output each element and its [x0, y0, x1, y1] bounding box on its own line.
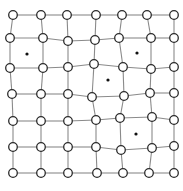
grid-node-circle-icon: [92, 143, 101, 152]
grid-graph-diagram: [0, 0, 183, 191]
grid-node-circle-icon: [6, 64, 15, 73]
grid-node-circle-icon: [9, 143, 18, 152]
grid-node-circle-icon: [64, 143, 73, 152]
grid-node-circle-icon: [170, 63, 179, 72]
grid-node-circle-icon: [92, 116, 101, 125]
grid-node-circle-icon: [88, 93, 97, 102]
grid-node-circle-icon: [170, 142, 179, 151]
grid-node-circle-icon: [90, 60, 99, 69]
grid-node-circle-icon: [119, 169, 128, 178]
grid-node-circle-icon: [8, 90, 17, 99]
grid-node-circle-icon: [147, 65, 156, 74]
grid-node-circle-icon: [37, 11, 46, 20]
grid-node-circle-icon: [92, 11, 101, 20]
grid-node-circle-icon: [170, 169, 179, 178]
grid-node-circle-icon: [64, 169, 73, 178]
grid-node-circle-icon: [170, 34, 179, 43]
grid-node-circle-icon: [118, 11, 127, 20]
grid-node-circle-icon: [9, 169, 18, 178]
grid-node-circle-icon: [170, 89, 179, 98]
grid-node-circle-icon: [147, 34, 156, 43]
grid-node-circle-icon: [64, 63, 73, 72]
grid-node-circle-icon: [119, 63, 128, 72]
vertical-edge: [92, 64, 94, 97]
center-dot-icon: [134, 132, 137, 135]
grid-node-circle-icon: [170, 11, 179, 20]
grid-node-circle-icon: [37, 117, 46, 126]
grid-node-circle-icon: [145, 169, 154, 178]
center-dot-icon: [135, 51, 138, 54]
grid-node-circle-icon: [39, 64, 48, 73]
grid-node-circle-icon: [37, 90, 46, 99]
grid-node-circle-icon: [91, 36, 100, 45]
grid-node-circle-icon: [148, 113, 157, 122]
grid-node-circle-icon: [39, 34, 48, 43]
grid-node-circle-icon: [64, 90, 73, 99]
grid-node-circle-icon: [170, 116, 179, 125]
center-dot-icon: [25, 52, 28, 55]
grid-node-circle-icon: [37, 169, 46, 178]
grid-node-circle-icon: [64, 37, 73, 46]
grid-node-circle-icon: [146, 89, 155, 98]
grid-node-circle-icon: [148, 144, 157, 153]
grid-node-circle-icon: [9, 117, 18, 126]
grid-node-circle-icon: [143, 11, 152, 20]
grid-node-circle-icon: [9, 11, 18, 20]
grid-node-circle-icon: [116, 114, 125, 123]
grid-node-circle-icon: [6, 34, 15, 43]
grid-node-circle-icon: [120, 92, 129, 101]
grid-node-circle-icon: [93, 169, 102, 178]
grid-node-circle-icon: [64, 117, 73, 126]
grid-node-circle-icon: [37, 143, 46, 152]
grid-node-circle-icon: [115, 34, 124, 43]
grid-node-circle-icon: [117, 146, 126, 155]
grid-node-circle-icon: [63, 11, 72, 20]
center-dot-icon: [106, 78, 109, 81]
